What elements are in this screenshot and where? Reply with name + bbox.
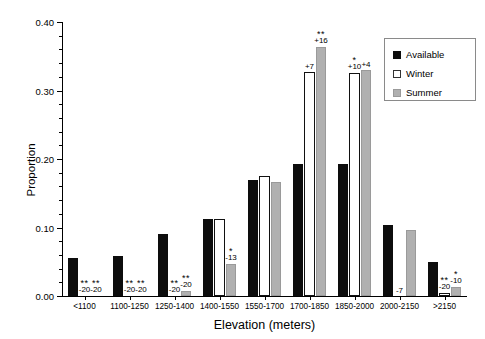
y-axis-minor-tick — [59, 282, 62, 283]
y-axis-minor-tick — [59, 269, 62, 270]
y-axis-minor-tick — [59, 255, 62, 256]
x-axis-tick — [175, 296, 176, 300]
bar-chart: Proportion 0.000.100.200.300.40<1100**-2… — [0, 0, 485, 339]
y-axis-tick — [57, 296, 62, 297]
bar-available-2 — [158, 234, 169, 296]
y-axis-tick — [57, 91, 62, 92]
y-axis-minor-tick — [59, 77, 62, 78]
bar-annotation-summer-0: **-20 — [90, 279, 102, 294]
x-axis-tick — [130, 296, 131, 300]
x-axis-tick-label: 1400-1550 — [200, 302, 239, 311]
y-axis-minor-tick — [59, 145, 62, 146]
bar-available-6 — [338, 164, 349, 296]
x-axis-tick-label: >2150 — [433, 302, 456, 311]
bar-annotation-winter-1: **-20 — [124, 279, 136, 294]
legend-item-available[interactable]: Available — [393, 45, 475, 64]
legend-label: Summer — [406, 87, 442, 98]
x-axis-title: Elevation (meters) — [62, 318, 467, 332]
bar-annotation-winter-5: +7 — [305, 63, 314, 71]
bar-annotation-winter-0: **-20 — [79, 279, 91, 294]
bar-summer-2 — [181, 291, 192, 296]
x-axis-tick-label: <1100 — [73, 302, 95, 311]
y-axis-tick — [57, 22, 62, 23]
y-axis-tick-label: 0.20 — [36, 154, 55, 165]
bar-available-4 — [248, 180, 259, 296]
bar-annotation-summer-6: +4 — [361, 61, 370, 69]
legend-swatch-summer-icon — [393, 89, 401, 97]
x-axis-tick — [445, 296, 446, 300]
y-axis-minor-tick — [59, 63, 62, 64]
x-axis-tick — [355, 296, 356, 300]
bar-available-3 — [203, 219, 214, 296]
bar-summer-6 — [361, 70, 372, 296]
y-axis-tick — [57, 228, 62, 229]
y-axis-minor-tick — [59, 214, 62, 215]
y-axis-minor-tick — [59, 173, 62, 174]
x-axis-tick — [220, 296, 221, 300]
bar-annotation-winter-8: **-20 — [439, 276, 451, 291]
bar-winter-8 — [439, 293, 450, 296]
y-axis-tick-label: 0.00 — [36, 291, 55, 302]
bar-summer-8 — [451, 287, 462, 296]
bar-winter-6 — [349, 73, 360, 296]
y-axis-tick-label: 0.40 — [36, 17, 55, 28]
chart-legend: AvailableWinterSummer — [384, 38, 476, 101]
y-axis-minor-tick — [59, 200, 62, 201]
legend-label: Winter — [406, 68, 433, 79]
y-axis-minor-tick — [59, 241, 62, 242]
bar-annotation-summer-5: **+16 — [314, 30, 328, 45]
legend-label: Available — [406, 49, 444, 60]
bar-annotation-summer-1: **-20 — [135, 279, 147, 294]
x-axis-tick-label: 1700-1850 — [290, 302, 329, 311]
bar-summer-7 — [406, 230, 417, 296]
bar-summer-5 — [316, 47, 327, 296]
bar-available-1 — [113, 256, 124, 296]
bar-winter-3 — [214, 219, 225, 296]
y-axis-minor-tick — [59, 186, 62, 187]
x-axis-tick-label: 1250-1400 — [155, 302, 194, 311]
y-axis-title: Proportion — [25, 143, 37, 196]
bar-winter-5 — [304, 72, 315, 296]
y-axis-minor-tick — [59, 49, 62, 50]
bar-annotation-summer-2: **-20 — [180, 274, 192, 289]
x-axis-tick — [265, 296, 266, 300]
bar-available-8 — [428, 262, 439, 296]
y-axis-tick-label: 0.10 — [36, 222, 55, 233]
x-axis-tick-label: 2000-2150 — [380, 302, 419, 311]
bar-winter-4 — [259, 176, 270, 296]
legend-item-summer[interactable]: Summer — [393, 83, 475, 102]
x-axis-tick — [310, 296, 311, 300]
y-axis-minor-tick — [59, 104, 62, 105]
legend-swatch-winter-icon — [393, 70, 401, 78]
bar-available-7 — [383, 225, 394, 296]
bar-annotation-summer-8: *-10 — [450, 270, 462, 285]
bar-summer-4 — [271, 182, 282, 296]
x-axis-tick-label: 1850-2000 — [335, 302, 374, 311]
y-axis-minor-tick — [59, 36, 62, 37]
legend-item-winter[interactable]: Winter — [393, 64, 475, 83]
bar-annotation-winter-6: *+10 — [348, 56, 362, 71]
y-axis-minor-tick — [59, 118, 62, 119]
bar-annotation-summer-3: *-13 — [225, 247, 237, 262]
x-axis-tick-label: 1100-1250 — [110, 302, 149, 311]
x-axis-tick — [85, 296, 86, 300]
x-axis-tick — [400, 296, 401, 300]
y-axis-tick-label: 0.30 — [36, 85, 55, 96]
bar-annotation-winter-7: -7 — [396, 287, 403, 295]
y-axis-minor-tick — [59, 132, 62, 133]
bar-annotation-winter-2: **-20 — [169, 279, 181, 294]
bar-summer-3 — [226, 264, 237, 296]
x-axis-tick-label: 1550-1700 — [245, 302, 284, 311]
legend-swatch-available-icon — [393, 51, 401, 59]
bar-available-5 — [293, 164, 304, 296]
bar-available-0 — [68, 258, 79, 296]
y-axis-tick — [57, 159, 62, 160]
